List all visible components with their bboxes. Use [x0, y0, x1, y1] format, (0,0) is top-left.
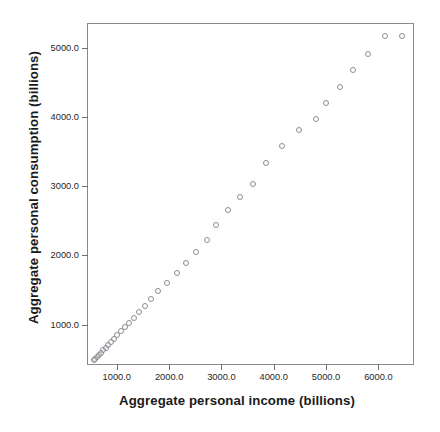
data-point [126, 320, 132, 326]
data-point [350, 67, 356, 73]
data-point [174, 270, 180, 276]
plot-area: 1000.02000.03000.04000.05000.0 1000.0200… [87, 23, 414, 365]
x-axis-title: Aggregate personal income (billions) [62, 393, 412, 408]
data-point [263, 160, 269, 166]
data-point [136, 309, 142, 315]
y-tick-label: 1000.0 [51, 320, 79, 330]
x-tick-label: 3000.0 [207, 372, 235, 382]
data-point [155, 288, 161, 294]
y-tick-label: 5000.0 [51, 43, 79, 53]
y-tick-label: 3000.0 [51, 181, 79, 191]
x-tick-mark [274, 364, 275, 370]
data-point [183, 260, 189, 266]
x-tick-label: 6000.0 [364, 372, 392, 382]
x-tick-label: 4000.0 [260, 372, 288, 382]
y-tick-label: 4000.0 [51, 112, 79, 122]
x-tick-mark [326, 364, 327, 370]
data-point [204, 237, 210, 243]
data-point [225, 207, 231, 213]
data-point [164, 280, 170, 286]
data-point [279, 143, 285, 149]
data-point [337, 84, 343, 90]
data-point [131, 315, 137, 321]
x-tick-label: 2000.0 [155, 372, 183, 382]
data-point [193, 249, 199, 255]
data-point [213, 222, 219, 228]
x-tick-mark [221, 364, 222, 370]
data-point [237, 194, 243, 200]
x-tick-mark [378, 364, 379, 370]
x-tick-label: 1000.0 [103, 372, 131, 382]
y-axis-title: Aggregate personal consumption (billions… [26, 23, 41, 353]
scatter-chart: Aggregate personal consumption (billions… [0, 0, 440, 432]
data-point [142, 303, 148, 309]
x-tick-mark [169, 364, 170, 370]
data-point [382, 33, 388, 39]
data-point [148, 296, 154, 302]
x-tick-label: 5000.0 [312, 372, 340, 382]
data-point [296, 127, 302, 133]
y-tick-label: 2000.0 [51, 250, 79, 260]
data-point [323, 100, 329, 106]
data-point [399, 33, 405, 39]
data-point [365, 51, 371, 57]
data-points-layer [88, 24, 413, 364]
x-tick-mark [117, 364, 118, 370]
data-point [313, 116, 319, 122]
data-point [250, 181, 256, 187]
